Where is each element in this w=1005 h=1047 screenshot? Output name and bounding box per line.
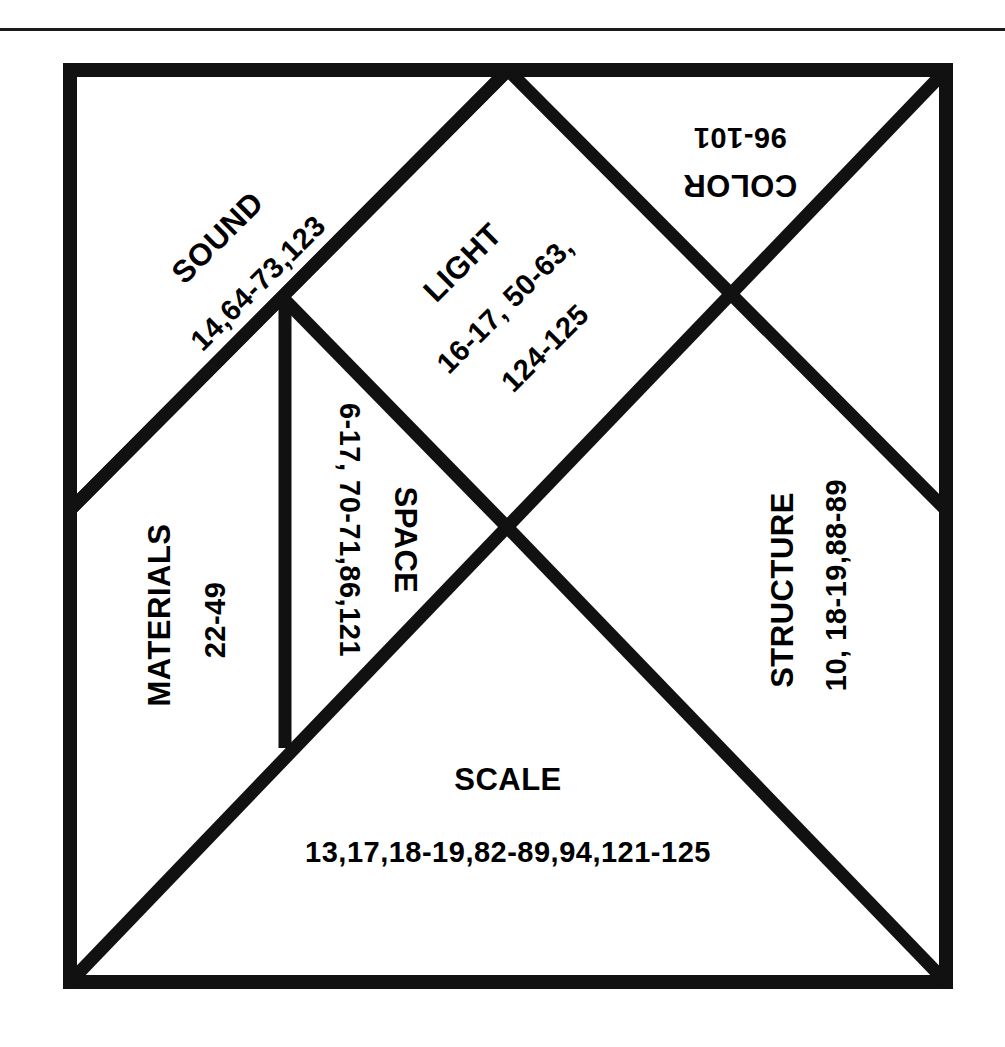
label-structure-pages: 10, 18-19,88-89 [820,479,852,691]
label-materials-pages: 22-49 [199,582,231,659]
label-space-pages: 6-17, 70-71,86,121 [334,403,366,657]
label-structure-name: STRUCTURE [765,492,800,688]
label-materials-name: MATERIALS [142,523,177,706]
label-scale-pages: 13,17,18-19,82-89,94,121-125 [305,836,711,868]
page-canvas: SOUND 14,64-73,123 LIGHT 16-17, 50-63, 1… [0,0,1005,1047]
label-color-name: COLOR [683,168,797,203]
tangram-svg: SOUND 14,64-73,123 LIGHT 16-17, 50-63, 1… [0,0,1005,1047]
label-color-pages: 96-101 [693,122,786,154]
label-space-name: SPACE [388,486,423,593]
label-scale-name: SCALE [454,762,562,797]
tangram-diagram: SOUND 14,64-73,123 LIGHT 16-17, 50-63, 1… [0,0,1005,1047]
